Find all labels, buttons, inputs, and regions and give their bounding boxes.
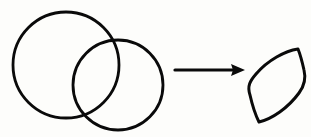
arrow-head-icon <box>231 64 245 76</box>
lens-vesica-shape <box>249 49 305 122</box>
operand-circle-group <box>13 12 163 130</box>
figure-canvas: Two overlapping circles transform into t… <box>0 0 311 137</box>
transformation-arrow <box>175 64 245 76</box>
result-lens-group <box>249 49 305 122</box>
diagram-svg: Two overlapping circles transform into t… <box>0 0 311 137</box>
large-left-circle <box>13 12 119 118</box>
